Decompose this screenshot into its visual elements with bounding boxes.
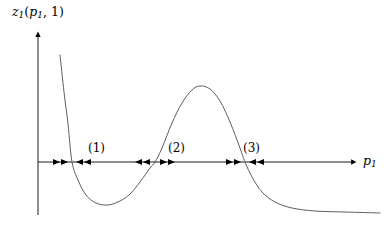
region-label-1: (1) bbox=[88, 142, 105, 154]
flow-arrow-left bbox=[249, 159, 256, 165]
flow-arrow-right bbox=[53, 159, 60, 165]
flow-arrow-right bbox=[160, 159, 167, 165]
y-axis-label-paren-close: ) bbox=[59, 4, 64, 19]
y-axis-label: z1(p1, 1) bbox=[12, 6, 64, 20]
x-axis-label-subscript: 1 bbox=[371, 159, 377, 169]
flow-arrow-left bbox=[135, 159, 142, 165]
y-axis-label-base: z bbox=[12, 4, 19, 19]
flow-arrow-right bbox=[61, 159, 68, 165]
phase-line-figure bbox=[0, 0, 391, 249]
x-axis-label: p1 bbox=[363, 155, 377, 169]
flow-arrow-right bbox=[234, 159, 241, 165]
x-axis-label-base: p bbox=[363, 153, 371, 168]
y-axis-label-separator: , 1 bbox=[43, 4, 59, 19]
flow-arrow-left bbox=[143, 159, 150, 165]
flow-arrow-left bbox=[257, 159, 264, 165]
region-label-3: (3) bbox=[243, 142, 260, 154]
region-label-2: (2) bbox=[168, 142, 185, 154]
flow-arrow-right bbox=[226, 159, 233, 165]
function-curve bbox=[60, 55, 380, 213]
flow-arrow-left bbox=[84, 159, 91, 165]
flow-arrow-left bbox=[76, 159, 83, 165]
flow-arrow-right bbox=[168, 159, 175, 165]
